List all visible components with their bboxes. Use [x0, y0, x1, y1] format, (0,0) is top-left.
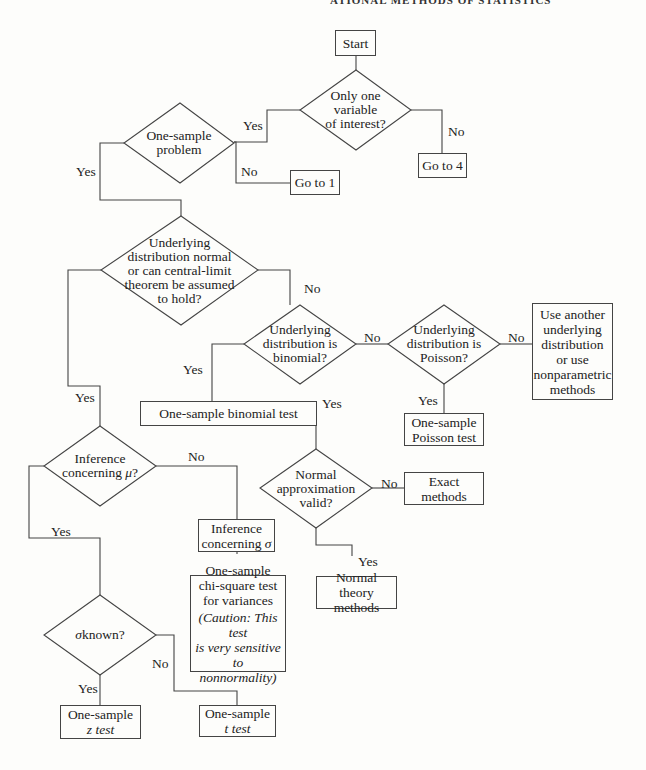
edge-label-no-poisson: No — [508, 330, 525, 346]
edge-label-no-normal: No — [304, 281, 321, 297]
edge-label-yes-sigma-known: Yes — [78, 681, 98, 697]
exact-methods-box: Exactmethods — [404, 472, 484, 505]
poisson-question-text: Underlyingdistribution isPoisson? — [388, 321, 500, 367]
edge-label-yes-normal-approx: Yes — [358, 554, 378, 570]
edge-label-no-normal-approx: No — [381, 476, 398, 492]
go-to-1-box: Go to 1 — [290, 170, 340, 195]
other-methods-box: Use anotherunderlyingdistributionor usen… — [532, 303, 613, 400]
underlying-normal-text: Underlyingdistribution normalor can cent… — [101, 235, 258, 307]
edge-label-yes-binomial-test: Yes — [322, 396, 342, 412]
sigma-known-question-text: σ known? — [44, 625, 156, 645]
binomial-question-text: Underlyingdistribution isbinomial? — [244, 321, 356, 367]
edge-label-yes-binomial: Yes — [183, 362, 203, 378]
go-to-4-box: Go to 4 — [418, 153, 467, 178]
z-test-box: One-samplez test — [60, 705, 141, 739]
edge-label-no-inference-mu: No — [188, 449, 205, 465]
normal-approx-question-text: Normalapproximationvalid? — [260, 466, 372, 512]
edge-label-no-one-variable: No — [448, 124, 465, 140]
binomial-test-box: One-sample binomial test — [140, 401, 317, 426]
edge-label-yes-inference-mu: Yes — [51, 524, 71, 540]
start-box: Start — [335, 30, 376, 56]
chi-square-test-box: One-sample chi-square test for variances… — [190, 575, 286, 672]
edge-label-yes-one-variable: Yes — [243, 118, 263, 134]
inference-mu-question-text: Inferenceconcerning μ? — [44, 451, 156, 481]
edge-label-no-one-sample: No — [241, 164, 258, 180]
inference-sigma-box: Inferenceconcerning σ — [198, 519, 275, 552]
edge-label-yes-normal-underlying: Yes — [75, 390, 95, 406]
edge-label-yes-poisson: Yes — [418, 393, 438, 409]
t-test-box: One-samplet test — [199, 705, 276, 737]
one-sample-problem-text: One-sampleproblem — [124, 128, 234, 158]
edge-label-no-sigma-known: No — [152, 656, 169, 672]
normal-theory-box: Normal theorymethods — [316, 576, 397, 609]
edge-label-no-binomial: No — [364, 330, 381, 346]
caution-note: (Caution: This testis very sensitive ton… — [191, 610, 285, 685]
poisson-test-box: One-samplePoisson test — [404, 413, 484, 446]
edge-label-yes-one-sample: Yes — [76, 164, 96, 180]
only-one-variable-text: Only onevariableof interest? — [300, 86, 411, 134]
